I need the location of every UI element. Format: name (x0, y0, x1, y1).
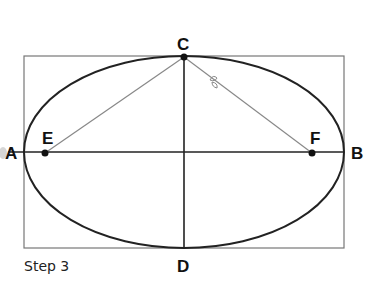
step-caption: Step 3 (24, 259, 69, 273)
label-d: D (177, 258, 189, 275)
point-e-dot (42, 150, 49, 157)
string-knot-icon (210, 76, 217, 88)
point-c-dot (181, 54, 188, 61)
string-c-f (184, 57, 312, 153)
label-e: E (42, 130, 53, 147)
label-b: B (351, 145, 363, 162)
label-f: F (310, 130, 320, 147)
label-a: A (5, 145, 17, 162)
point-f-dot (309, 150, 316, 157)
string-e-c (45, 57, 184, 153)
label-c: C (177, 36, 189, 53)
